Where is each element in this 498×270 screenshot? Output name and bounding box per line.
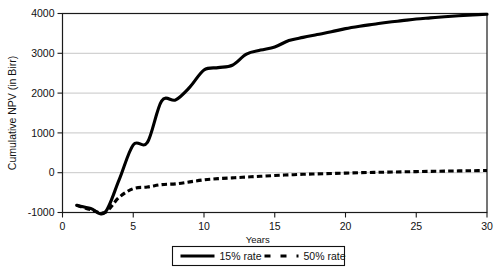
x-tick-label-5: 5: [130, 220, 136, 232]
y-axis-title: Cumulative NPV (in Birr): [6, 56, 18, 170]
series-line-15-rate: [77, 14, 487, 214]
x-tick-label-15: 15: [269, 220, 281, 232]
y-tick-label-0: 0: [49, 166, 55, 178]
plot-area-border: [63, 14, 488, 213]
y-axis-ticks: -100001000200030004000: [28, 7, 63, 218]
plot-frame: [63, 14, 488, 213]
x-axis-title: Years: [246, 234, 270, 245]
x-tick-label-0: 0: [60, 220, 66, 232]
x-tick-label-20: 20: [340, 220, 352, 232]
legend-label-2: 50% rate: [304, 250, 346, 262]
y-tick-label--1000: -1000: [28, 206, 55, 218]
y-tick-label-1000: 1000: [31, 127, 55, 139]
x-tick-label-30: 30: [481, 220, 493, 232]
chart-legend: 15% rate50% rate: [173, 247, 346, 266]
chart-container: -100001000200030004000 051015202530 Cumu…: [0, 0, 498, 270]
y-tick-label-2000: 2000: [31, 87, 55, 99]
x-tick-label-10: 10: [198, 220, 210, 232]
y-tick-label-4000: 4000: [31, 7, 55, 19]
npv-line-chart: -100001000200030004000 051015202530 Cumu…: [0, 0, 498, 270]
legend-label-1: 15% rate: [220, 250, 262, 262]
gridlines: [63, 14, 488, 173]
series-line-50-rate: [77, 171, 487, 214]
x-tick-label-25: 25: [410, 220, 422, 232]
data-series: [77, 14, 487, 214]
x-axis-ticks: 051015202530: [60, 213, 493, 232]
y-tick-label-3000: 3000: [31, 47, 55, 59]
